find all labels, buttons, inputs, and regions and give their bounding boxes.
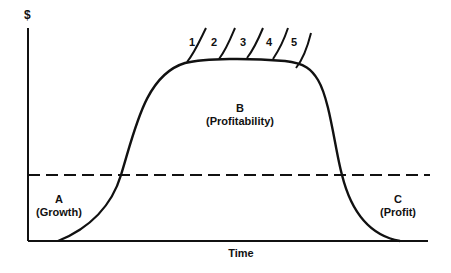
region-a-letter: A (28, 193, 90, 206)
life-cycle-diagram (0, 0, 451, 273)
region-b-letter: B (200, 102, 280, 115)
life-cycle-curve (58, 59, 400, 241)
branch-3 (247, 28, 263, 58)
x-axis-label: Time (224, 247, 258, 260)
region-b-label: B (Profitability) (200, 102, 280, 128)
branch-4 (273, 28, 288, 59)
branch-label-5: 5 (291, 36, 297, 48)
branch-label-2: 2 (211, 36, 217, 48)
branch-2 (219, 28, 235, 59)
region-c-label: C (Profit) (370, 193, 426, 219)
region-a-caption: (Growth) (28, 206, 90, 219)
branch-label-1: 1 (189, 36, 195, 48)
region-a-label: A (Growth) (28, 193, 90, 219)
region-c-caption: (Profit) (370, 206, 426, 219)
region-c-letter: C (370, 193, 426, 206)
y-axis-label: $ (24, 9, 31, 22)
branch-label-3: 3 (240, 36, 246, 48)
region-b-caption: (Profitability) (200, 115, 280, 128)
branch-label-4: 4 (266, 36, 272, 48)
